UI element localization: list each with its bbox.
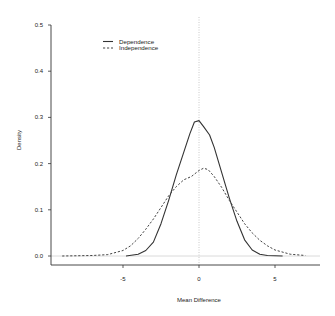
- x-tick-label: -5: [120, 276, 126, 282]
- y-tick-label: 0.4: [35, 68, 44, 74]
- y-tick-label: 0.1: [35, 207, 44, 213]
- x-tick-label: 5: [273, 276, 277, 282]
- x-axis-label: Mean Difference: [177, 297, 222, 303]
- density-chart: 0.00.10.20.30.40.5 -505 Mean Difference …: [0, 0, 335, 316]
- y-tick-label: 0.5: [35, 22, 44, 28]
- y-tick-label: 0.0: [35, 253, 44, 259]
- y-axis-label: Density: [16, 130, 22, 150]
- x-axis: -505: [51, 265, 320, 282]
- independence-curve: [62, 168, 305, 256]
- y-tick-label: 0.3: [35, 114, 44, 120]
- x-tick-label: 0: [197, 276, 201, 282]
- y-tick-label: 0.2: [35, 161, 44, 167]
- dependence-curve: [126, 121, 283, 256]
- legend-label-independence: Independence: [119, 44, 159, 51]
- legend: Dependence Independence: [103, 38, 159, 52]
- y-axis: 0.00.10.20.30.40.5: [35, 22, 51, 265]
